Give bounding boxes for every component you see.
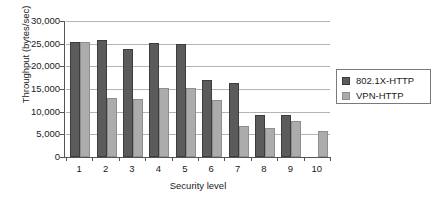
x-axis-tick-label: 1	[66, 163, 92, 175]
y-axis-tick-labels: 30,00025,00020,00015,00010,0005,0000	[14, 0, 60, 208]
legend-swatch-icon	[342, 92, 350, 100]
bar	[176, 44, 186, 157]
x-axis-tick-mark	[277, 157, 278, 161]
x-axis-tick-mark	[224, 157, 225, 161]
bar	[229, 83, 239, 157]
bar-group	[122, 21, 144, 157]
bar	[202, 80, 212, 157]
x-axis-tick-label: 6	[198, 163, 224, 175]
x-axis-tick-mark	[119, 157, 120, 161]
y-axis-tick-label: 20,000	[16, 61, 60, 71]
bar	[239, 126, 249, 157]
x-axis-tick-label: 2	[93, 163, 119, 175]
bar-group	[96, 21, 118, 157]
y-axis-tick-label: 25,000	[16, 39, 60, 49]
bar	[318, 131, 328, 157]
bar	[281, 115, 291, 157]
y-axis-tick-mark	[60, 134, 65, 135]
x-axis-tick-label: 4	[145, 163, 171, 175]
x-axis-tick-label: 9	[277, 163, 303, 175]
legend-swatch-icon	[342, 77, 350, 85]
y-axis-tick-mark	[60, 66, 65, 67]
x-axis-tick-mark	[66, 157, 67, 161]
bar	[133, 99, 143, 157]
x-axis-tick-mark	[304, 157, 305, 161]
bar-group	[175, 21, 197, 157]
x-axis-tick-mark	[145, 157, 146, 161]
x-axis-tick-mark	[330, 157, 331, 161]
y-axis-tick-label: 30,000	[16, 16, 60, 26]
x-axis-tick-mark	[172, 157, 173, 161]
x-axis-title: Security level	[66, 180, 330, 192]
y-axis-tick-mark	[60, 44, 65, 45]
x-axis-tick-label: 3	[119, 163, 145, 175]
y-axis-tick-mark	[60, 157, 65, 158]
bar	[97, 40, 107, 157]
legend-item-label: 802.1X-HTTP	[356, 75, 414, 86]
bar	[123, 49, 133, 157]
x-axis-tick-label: 7	[225, 163, 251, 175]
bar-group	[69, 21, 91, 157]
bar-group	[201, 21, 223, 157]
bar	[186, 88, 196, 157]
x-axis-tick-label: 10	[304, 163, 330, 175]
bar-group	[228, 21, 250, 157]
bar	[212, 100, 222, 157]
bar-chart: Throughput (bytes/sec) 30,00025,00020,00…	[0, 0, 437, 208]
bar	[159, 88, 169, 157]
bar-group	[307, 21, 329, 157]
y-axis-tick-mark	[60, 89, 65, 90]
y-axis-tick-label: 0	[16, 152, 60, 162]
legend-item: VPN-HTTP	[342, 89, 430, 102]
bar-group	[280, 21, 302, 157]
y-axis-tick-label: 10,000	[16, 107, 60, 117]
y-axis-tick-mark	[60, 112, 65, 113]
bar	[70, 42, 80, 157]
bar	[255, 115, 265, 157]
x-axis-tick-mark	[251, 157, 252, 161]
x-axis-tick-mark	[198, 157, 199, 161]
chart-legend: 802.1X-HTTP VPN-HTTP	[336, 69, 431, 104]
y-axis-tick-mark	[60, 21, 65, 22]
x-axis-tick-mark	[92, 157, 93, 161]
bar-group	[148, 21, 170, 157]
x-axis-tick-label: 8	[251, 163, 277, 175]
plot-area	[66, 21, 330, 157]
bar-group	[254, 21, 276, 157]
y-axis-tick-label: 5,000	[16, 129, 60, 139]
y-axis-tick-label: 15,000	[16, 84, 60, 94]
x-axis-tick-labels: 12345678910	[66, 163, 330, 177]
legend-item: 802.1X-HTTP	[342, 74, 430, 87]
legend-item-label: VPN-HTTP	[356, 90, 404, 101]
bar	[80, 42, 90, 157]
bar	[107, 98, 117, 157]
bar	[265, 128, 275, 157]
x-axis-tick-label: 5	[172, 163, 198, 175]
bar	[149, 43, 159, 157]
bar-series-container	[66, 21, 330, 157]
bar	[291, 121, 301, 157]
